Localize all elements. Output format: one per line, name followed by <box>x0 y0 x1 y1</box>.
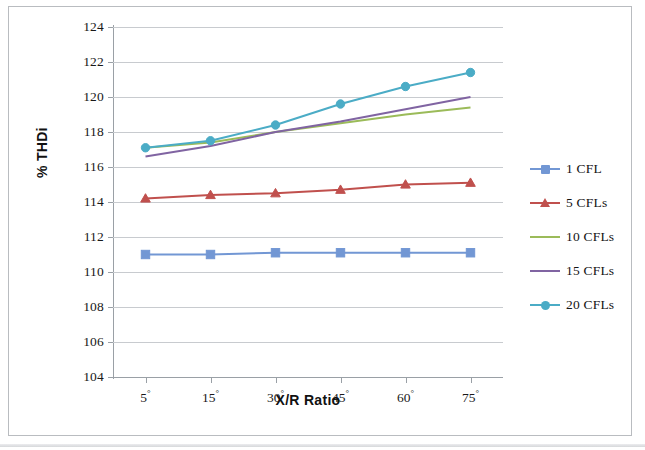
legend-swatch <box>530 197 560 209</box>
y-axis-tick-label: 108 <box>83 299 104 315</box>
series-line <box>146 97 471 157</box>
legend-item[interactable]: 1 CFL <box>530 152 640 186</box>
y-axis-tick-label: 106 <box>83 334 104 350</box>
series-line <box>146 73 471 148</box>
series-layer <box>113 27 503 377</box>
legend-item[interactable]: 20 CFLs <box>530 288 640 322</box>
gridline <box>113 377 503 378</box>
legend-line <box>530 270 560 272</box>
y-axis-tick-label: 122 <box>83 54 104 70</box>
y-axis-tick-label: 114 <box>84 194 104 210</box>
x-axis-title: X/R Ratio <box>113 392 503 408</box>
legend-label: 1 CFL <box>566 161 602 177</box>
legend-marker-circle-icon <box>541 301 550 310</box>
data-point-marker <box>141 250 149 258</box>
x-axis-tick <box>341 377 342 383</box>
page-bottom-edge <box>0 444 645 447</box>
legend-item[interactable]: 15 CFLs <box>530 254 640 288</box>
y-axis-tick-label: 116 <box>84 159 104 175</box>
legend-swatch <box>530 231 560 243</box>
data-point-marker <box>466 249 474 257</box>
legend-label: 5 CFLs <box>566 195 607 211</box>
legend-item[interactable]: 5 CFLs <box>530 186 640 220</box>
data-point-marker <box>401 82 409 90</box>
data-point-marker <box>271 121 279 129</box>
x-axis-tick <box>211 377 212 383</box>
legend-swatch <box>530 299 560 311</box>
legend-marker-square-icon <box>541 165 550 174</box>
data-point-marker <box>401 249 409 257</box>
data-point-marker <box>206 137 214 145</box>
legend-label: 20 CFLs <box>566 297 614 313</box>
legend-label: 10 CFLs <box>566 229 614 245</box>
y-axis-tick-label: 110 <box>84 264 104 280</box>
x-axis-tick <box>146 377 147 383</box>
y-axis-tick-label: 118 <box>84 124 104 140</box>
legend-marker-triangle-icon <box>540 198 550 207</box>
y-axis-tick-label: 104 <box>83 369 104 385</box>
chart-legend: 1 CFL5 CFLs10 CFLs15 CFLs20 CFLs <box>530 152 640 322</box>
data-point-marker <box>336 100 344 108</box>
data-point-marker <box>336 249 344 257</box>
x-axis-tick <box>471 377 472 383</box>
legend-item[interactable]: 10 CFLs <box>530 220 640 254</box>
data-point-marker <box>466 68 474 76</box>
legend-label: 15 CFLs <box>566 263 614 279</box>
chart-screenshot: 104106108110112114116118120122124 5°15°3… <box>0 0 645 450</box>
data-point-marker <box>271 249 279 257</box>
y-axis-tick-label: 124 <box>83 19 104 35</box>
series-line <box>146 253 471 255</box>
legend-swatch <box>530 265 560 277</box>
y-axis-tick-label: 120 <box>83 89 104 105</box>
x-axis-tick <box>406 377 407 383</box>
legend-line <box>530 236 560 238</box>
y-axis-tick-label: 112 <box>84 229 104 245</box>
x-axis-tick <box>276 377 277 383</box>
series-line <box>146 183 471 199</box>
data-point-marker <box>206 250 214 258</box>
legend-swatch <box>530 163 560 175</box>
plot-area <box>113 27 503 377</box>
y-axis-title: % THDi <box>34 127 50 178</box>
data-point-marker <box>141 144 149 152</box>
